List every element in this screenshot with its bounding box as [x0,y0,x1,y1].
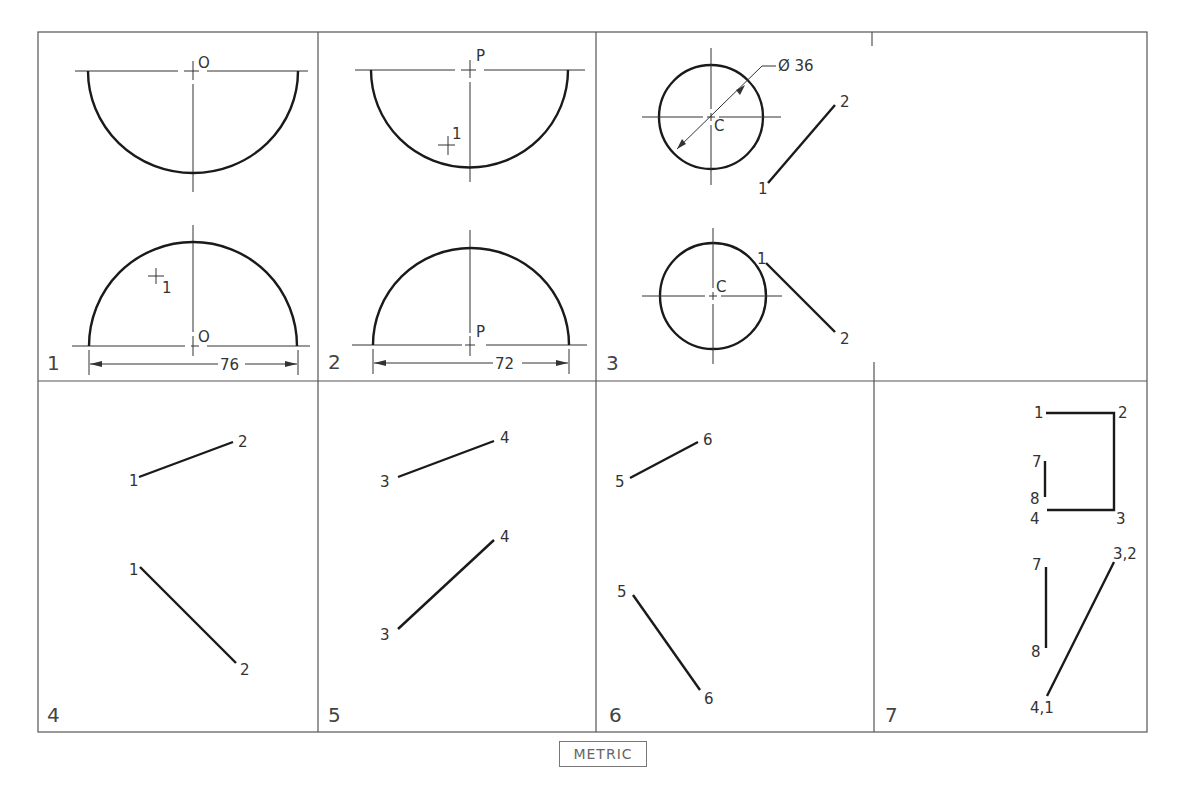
label-2: 2 [840,330,850,348]
panel-1: O 1 O 76 1 [47,54,310,375]
label-8: 8 [1031,643,1041,661]
panel-number-7: 7 [885,703,898,727]
label-point-1: 1 [452,125,462,143]
label-3: 3 [380,626,390,644]
units-badge: METRIC [559,741,647,767]
label-1: 1 [758,180,768,198]
label-8: 8 [1030,490,1040,508]
label-3-2: 3,2 [1113,545,1137,563]
panel-number-3: 3 [606,351,619,375]
label-3: 3 [380,473,390,491]
panel-5: 3 4 3 4 5 [328,429,510,727]
panel-7: 1 2 3 4 7 8 7 8 3,2 4,1 7 [885,404,1137,727]
label-1: 1 [129,561,139,579]
panel-2: 1 P P 72 2 [328,47,587,374]
label-2: 2 [240,661,250,679]
label-2: 2 [238,433,248,451]
panel-4: 1 2 1 2 4 [47,433,250,727]
label-1: 1 [1034,404,1044,422]
dimension-72: 72 [495,355,514,373]
panel-number-4: 4 [47,703,60,727]
label-p-top: P [476,47,485,65]
drawing-sheet: O 1 O 76 1 1 P P [0,0,1178,799]
panel-3: Ø 36 C 1 2 C 1 2 3 [606,48,850,375]
panel-number-2: 2 [328,350,341,374]
label-4: 4 [1030,510,1040,528]
outer-border [38,32,1147,732]
panel-number-1: 1 [47,351,60,375]
label-4: 4 [500,429,510,447]
panel-6: 5 6 5 6 6 [609,431,714,727]
label-4-1: 4,1 [1030,699,1054,717]
label-6: 6 [704,690,714,708]
label-2: 2 [1118,404,1128,422]
diameter-dimension: Ø 36 [778,57,814,75]
label-4: 4 [500,528,510,546]
label-2: 2 [840,93,850,111]
dimension-76: 76 [220,356,239,374]
label-1: 1 [757,250,767,268]
label-7: 7 [1032,556,1042,574]
label-7: 7 [1032,453,1042,471]
label-point-1: 1 [162,279,172,297]
label-o-top: O [198,54,210,72]
label-3: 3 [1116,510,1126,528]
label-5: 5 [617,583,627,601]
panel-number-6: 6 [609,703,622,727]
label-c-top: C [714,117,724,135]
label-o-bottom: O [198,328,210,346]
label-5: 5 [615,473,625,491]
label-1: 1 [129,472,139,490]
label-c-bottom: C [716,278,726,296]
label-6: 6 [703,431,713,449]
panel-number-5: 5 [328,703,341,727]
label-p-bottom: P [476,323,485,341]
